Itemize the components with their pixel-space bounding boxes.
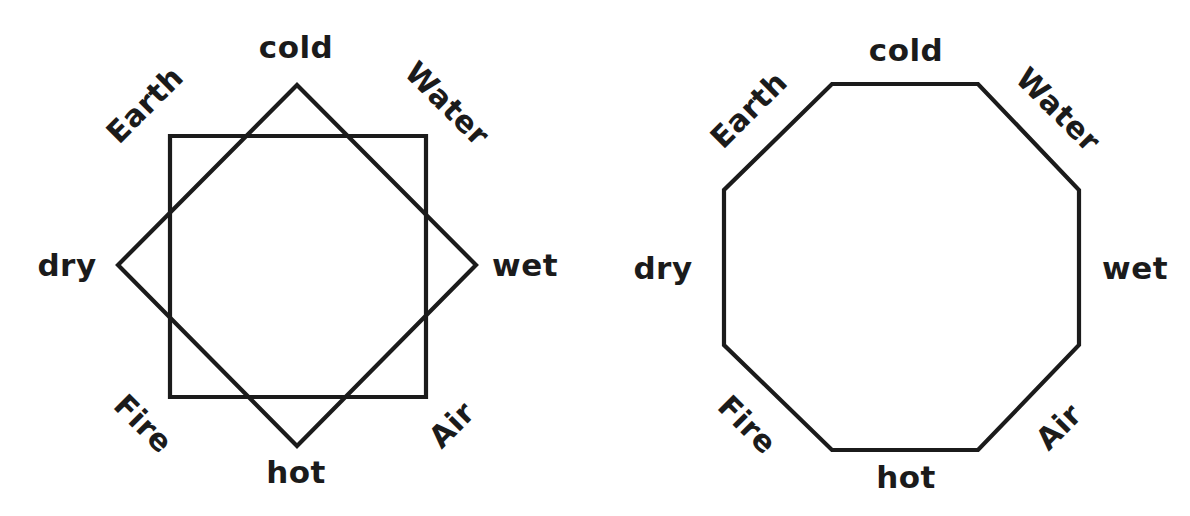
label-dry: dry [37,250,96,281]
label-hot: hot [266,457,326,488]
figure-board: coldWaterwetAirhotFiredryEarth coldWater… [0,0,1190,516]
label-cold: cold [259,32,334,63]
octagon-shape [724,84,1079,450]
label-wet: wet [492,250,558,281]
figure-square-and-diamond: coldWaterwetAirhotFiredryEarth [0,0,595,516]
label-wet: wet [1102,253,1168,284]
label-dry: dry [633,253,692,284]
label-hot: hot [876,462,936,493]
figure-octagon: coldWaterwetAirhotFiredryEarth [595,0,1190,516]
label-cold: cold [869,35,944,66]
